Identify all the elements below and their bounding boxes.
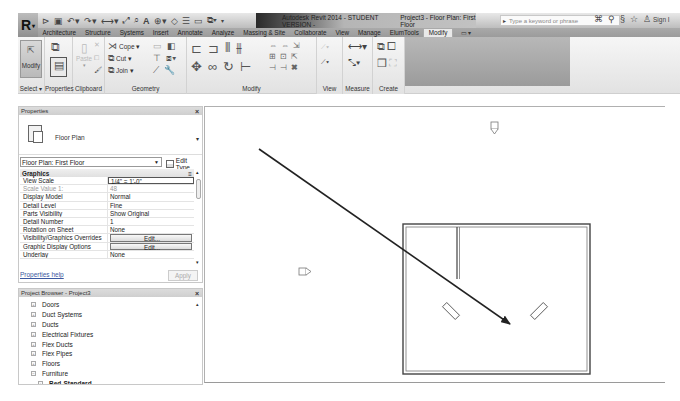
apply-button[interactable]: Apply xyxy=(168,270,198,281)
aligned-dimension-icon[interactable]: ⤡▾ xyxy=(348,57,360,69)
create-similar-icon[interactable]: ⛶ xyxy=(389,57,397,70)
display-model-value[interactable]: Normal xyxy=(108,193,194,200)
user-icon[interactable]: ♙ xyxy=(643,14,651,24)
trim-icon[interactable]: ⊢ xyxy=(240,59,251,74)
3d-view-icon[interactable]: ⊕▾ xyxy=(154,16,167,26)
align-icon[interactable]: ⊏ xyxy=(191,41,202,56)
parts-visibility-value[interactable]: Show Original xyxy=(108,210,194,217)
mirror-draw-icon[interactable]: ⫵ xyxy=(236,40,242,56)
undo-icon[interactable]: ↶▾ xyxy=(67,16,80,26)
tab-view[interactable]: View xyxy=(331,28,354,37)
cut-geometry-button[interactable]: ⧉ Cut ▾ xyxy=(108,53,132,64)
split-face-icon[interactable]: ▭ xyxy=(153,41,162,52)
drawing-canvas[interactable] xyxy=(204,106,665,383)
tree-item-duct-systems[interactable]: +Duct Systems xyxy=(19,310,202,320)
tab-structure[interactable]: Structure xyxy=(81,28,116,37)
expand-icon[interactable]: + xyxy=(31,351,36,356)
move-icon[interactable]: ✥ xyxy=(191,59,202,74)
pin-icon[interactable]: ⇲ xyxy=(293,41,300,50)
copy-element-icon[interactable]: ∞ xyxy=(208,59,217,74)
paint-icon[interactable]: ◧ xyxy=(167,41,176,52)
delete-icon[interactable]: ✖ xyxy=(291,63,298,72)
cope-button[interactable]: ⋊ Cope ▾ xyxy=(108,41,140,52)
tab-architecture[interactable]: Architecture xyxy=(38,28,81,37)
override-graphics-icon[interactable]: ⟋▾ xyxy=(321,58,329,66)
chevron-down-icon[interactable]: ▾ xyxy=(196,135,199,142)
split-icon[interactable]: ⇔ xyxy=(269,41,277,50)
create-parts-icon[interactable]: ⧠ xyxy=(387,40,396,53)
communication-icon[interactable]: § xyxy=(620,14,625,24)
close-icon[interactable]: × xyxy=(195,108,199,115)
tree-item-doors[interactable]: +Doors xyxy=(19,300,202,310)
tree-item-floors[interactable]: +Floors xyxy=(19,359,202,369)
array-icon[interactable]: ⊞ xyxy=(269,52,276,61)
tag-icon[interactable]: ⌕ xyxy=(134,15,139,26)
detail-level-value[interactable]: Fine xyxy=(108,202,194,209)
tab-massing-site[interactable]: Massing & Site xyxy=(239,28,290,37)
properties-scrollbar[interactable]: ▴ ▾ xyxy=(195,169,202,265)
trim-extend-multiple-icon[interactable]: ⊣ xyxy=(280,63,287,72)
group-graphics[interactable]: Graphics ≡ xyxy=(20,169,194,177)
join-button[interactable]: ⧉ Join ▾ xyxy=(108,65,134,76)
create-assembly-icon[interactable]: ⧉ xyxy=(377,40,385,53)
unpin-icon[interactable]: ⇱ xyxy=(291,52,298,61)
measure-between-icon[interactable]: ⟷▾ xyxy=(348,41,367,52)
split-gap-icon[interactable]: ⇔ xyxy=(281,41,289,50)
collapse-icon[interactable]: − xyxy=(31,371,36,376)
detail-number-value[interactable]: 1 xyxy=(108,218,194,225)
scrollbar-thumb[interactable] xyxy=(196,179,201,199)
beam-join-icon[interactable]: ⟋ xyxy=(153,65,159,76)
copy-icon[interactable]: ⧠ xyxy=(94,54,99,62)
close-hidden-icon[interactable]: ▭ xyxy=(194,16,203,26)
vg-overrides-edit-button[interactable]: Edit... xyxy=(110,234,192,241)
scroll-down-icon[interactable]: ▾ xyxy=(196,259,199,265)
type-properties-button[interactable]: ⧉ xyxy=(51,40,60,54)
tree-item-bed-standard[interactable]: +Bed-Standard xyxy=(19,378,202,385)
furniture-left-icon[interactable] xyxy=(443,303,460,320)
scroll-up-icon[interactable]: ▴ xyxy=(196,169,199,175)
create-group-icon[interactable]: ❒ xyxy=(377,57,387,70)
properties-button[interactable]: ▤ xyxy=(50,57,67,77)
rotation-on-sheet-value[interactable]: None xyxy=(108,226,194,233)
match-type-icon[interactable]: 🖌 xyxy=(94,66,102,74)
rotate-icon[interactable]: ↻ xyxy=(223,59,234,74)
section-icon[interactable]: ◇ xyxy=(171,16,178,26)
room-walls[interactable] xyxy=(403,224,590,374)
switch-windows-icon[interactable]: ⧉▾ xyxy=(207,15,217,26)
scale-icon[interactable]: ⊡ xyxy=(280,52,287,61)
tree-item-ducts[interactable]: +Ducts xyxy=(19,320,202,330)
tab-manage[interactable]: Manage xyxy=(353,28,385,37)
tab-annotate[interactable]: Annotate xyxy=(173,28,207,37)
tree-item-electrical-fixtures[interactable]: +Electrical Fixtures xyxy=(19,329,202,339)
paste-button[interactable]: ▯ Paste ▾ xyxy=(76,41,92,68)
text-icon[interactable]: A xyxy=(143,16,150,26)
tab-collaborate[interactable]: Collaborate xyxy=(290,28,331,37)
tree-item-flex-pipes[interactable]: +Flex Pipes xyxy=(19,349,202,359)
tree-item-furniture[interactable]: −Furniture xyxy=(19,369,202,379)
scroll-up-icon[interactable]: ▴ xyxy=(196,301,199,307)
modify-button[interactable]: ⇱ Modify xyxy=(20,40,42,78)
favorites-icon[interactable]: ☆ xyxy=(630,14,638,24)
mirror-axis-icon[interactable]: ⫴ xyxy=(225,40,230,56)
expand-icon[interactable]: + xyxy=(31,332,36,337)
underlay-value[interactable]: None xyxy=(108,251,194,258)
hide-element-icon[interactable]: ⟋▾ xyxy=(321,43,329,51)
tree-item-flex-ducts[interactable]: +Flex Ducts xyxy=(19,339,202,349)
tab-insert[interactable]: Insert xyxy=(148,28,173,37)
tab-analyze[interactable]: Analyze xyxy=(207,28,238,37)
expand-icon[interactable]: + xyxy=(31,302,36,307)
elevation-marker-west-icon[interactable] xyxy=(299,268,311,275)
expand-icon[interactable]: + xyxy=(38,381,43,385)
dimension-icon[interactable]: ⤢ xyxy=(123,15,130,26)
tab-elumtools[interactable]: ElumTools xyxy=(385,28,423,37)
offset-icon[interactable]: ⊐ xyxy=(208,41,219,56)
thin-lines-icon[interactable]: ☰ xyxy=(182,16,190,26)
expand-icon[interactable]: + xyxy=(31,322,36,327)
view-scale-input[interactable]: 1/4" = 1'-0" xyxy=(108,177,194,184)
demolish-icon[interactable]: ⧈▾ xyxy=(166,53,176,64)
ribbon-minimize-icon[interactable]: ▭ ▾ xyxy=(461,29,472,36)
expand-icon[interactable]: + xyxy=(31,312,36,317)
furniture-right-icon[interactable] xyxy=(531,303,548,320)
subscription-icon[interactable]: ⚲ xyxy=(608,14,615,24)
close-icon[interactable]: × xyxy=(195,290,199,297)
